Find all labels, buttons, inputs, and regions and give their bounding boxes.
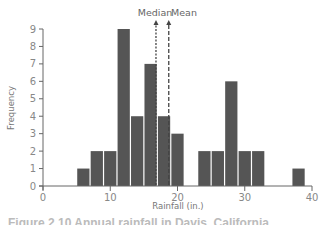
histogram-bar (198, 151, 210, 186)
histogram-bar (131, 116, 143, 186)
y-tick-label: 4 (30, 111, 36, 122)
y-tick-label: 6 (30, 76, 36, 87)
histogram-bar (212, 151, 224, 186)
histogram-bar (144, 64, 156, 186)
median-label: Median (138, 7, 173, 18)
histogram-bars (77, 29, 304, 186)
y-tick-label: 1 (30, 163, 36, 174)
y-tick-label: 8 (30, 41, 36, 52)
x-tick-label: 0 (40, 192, 46, 203)
histogram-chart: 0123456789 010203040 Rainfall (in.) Freq… (0, 0, 330, 225)
y-tick-label: 9 (30, 24, 36, 35)
x-tick-label: 40 (306, 192, 319, 203)
y-axis-label: Frequency (6, 86, 16, 130)
histogram-bar (91, 151, 103, 186)
y-axis: 0123456789 (30, 24, 43, 192)
y-tick-label: 2 (30, 146, 36, 157)
histogram-bar (239, 151, 251, 186)
x-tick-label: 10 (104, 192, 117, 203)
histogram-bar (225, 81, 237, 186)
x-tick-label: 30 (238, 192, 251, 203)
histogram-bar (104, 151, 116, 186)
histogram-bar (171, 134, 183, 186)
figure-caption: Figure 2.10 Annual rainfall in Davis, Ca… (8, 216, 269, 225)
histogram-bar (292, 169, 304, 186)
y-tick-label: 0 (30, 181, 36, 192)
arrow-up-icon (153, 20, 158, 25)
histogram-bar (252, 151, 264, 186)
y-tick-label: 3 (30, 128, 36, 139)
mean-label: Mean (171, 7, 197, 18)
y-tick-label: 7 (30, 58, 36, 69)
histogram-bar (118, 29, 130, 186)
x-axis-label: Rainfall (in.) (152, 201, 203, 211)
histogram-bar (77, 169, 89, 186)
arrow-up-icon (166, 20, 171, 25)
y-tick-label: 5 (30, 93, 36, 104)
